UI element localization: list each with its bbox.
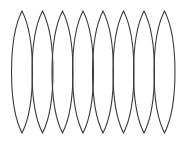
lens-group — [12, 11, 175, 133]
lens-shape-4 — [73, 11, 94, 133]
lens-shape-3 — [52, 11, 73, 133]
lens-shape-2 — [32, 11, 53, 133]
lens-shape-8 — [154, 11, 175, 133]
lens-shape-1 — [12, 11, 33, 133]
lens-shape-6 — [113, 11, 134, 133]
lens-shape-5 — [93, 11, 114, 133]
lens-shape-7 — [134, 11, 155, 133]
lens-row-diagram — [0, 0, 183, 144]
